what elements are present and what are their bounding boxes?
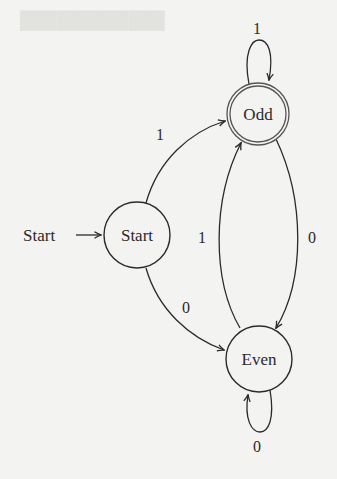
start-marker-label: Start: [23, 226, 55, 245]
edge-label-even-odd: 1: [198, 229, 206, 246]
edge-even-odd: [219, 143, 241, 328]
state-diagram: Start 1 0 1 0 1 0 Start Odd Even: [0, 0, 337, 479]
edge-label-odd-self: 1: [253, 20, 261, 37]
state-even: Even: [226, 326, 292, 392]
state-start-label: Start: [121, 226, 153, 245]
state-start: Start: [104, 202, 170, 268]
start-marker: Start: [23, 226, 101, 245]
state-even-label: Even: [242, 350, 277, 369]
edge-even-self: [247, 390, 272, 432]
state-odd: Odd: [227, 83, 289, 145]
edge-label-start-even: 0: [182, 299, 190, 316]
edge-odd-even: [276, 139, 298, 328]
edge-odd-self: [247, 40, 271, 84]
state-odd-label: Odd: [243, 105, 273, 124]
edge-label-start-odd: 1: [156, 126, 164, 143]
edge-label-even-self: 0: [253, 438, 261, 455]
edge-label-odd-even: 0: [308, 229, 316, 246]
